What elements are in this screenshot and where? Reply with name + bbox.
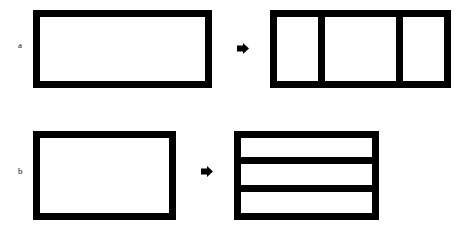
row-a-original-rectangle — [33, 10, 212, 88]
row-a-divided-rectangle — [270, 10, 451, 88]
horizontal-divider-1 — [241, 157, 372, 164]
vertical-divider-1 — [318, 17, 325, 81]
vertical-divider-2 — [396, 17, 403, 81]
row-a-label: a — [18, 41, 22, 50]
arrow-right-icon — [201, 166, 213, 177]
arrow-right-icon — [237, 43, 249, 54]
row-b-label: b — [18, 167, 23, 176]
row-b-original-rectangle — [33, 131, 176, 220]
horizontal-divider-2 — [241, 185, 372, 192]
row-b-divided-rectangle — [234, 131, 379, 220]
